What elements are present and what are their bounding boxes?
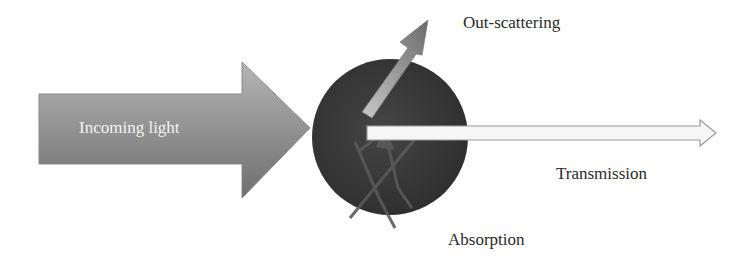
incoming-light-label: Incoming light (79, 118, 180, 138)
transmission-label: Transmission (556, 164, 647, 184)
out-scattering-label: Out-scattering (463, 13, 560, 33)
absorption-label: Absorption (448, 230, 525, 250)
